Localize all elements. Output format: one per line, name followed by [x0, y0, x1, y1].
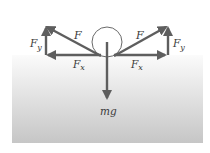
label-weight-mg: mg — [100, 105, 117, 117]
label-left-Fy: Fy — [29, 37, 42, 52]
force-diagram: F F Fy Fy Fx Fx mg — [0, 0, 210, 153]
label-right-Fy: Fy — [172, 37, 185, 52]
label-right-F: F — [135, 29, 144, 42]
label-left-F: F — [73, 29, 82, 42]
